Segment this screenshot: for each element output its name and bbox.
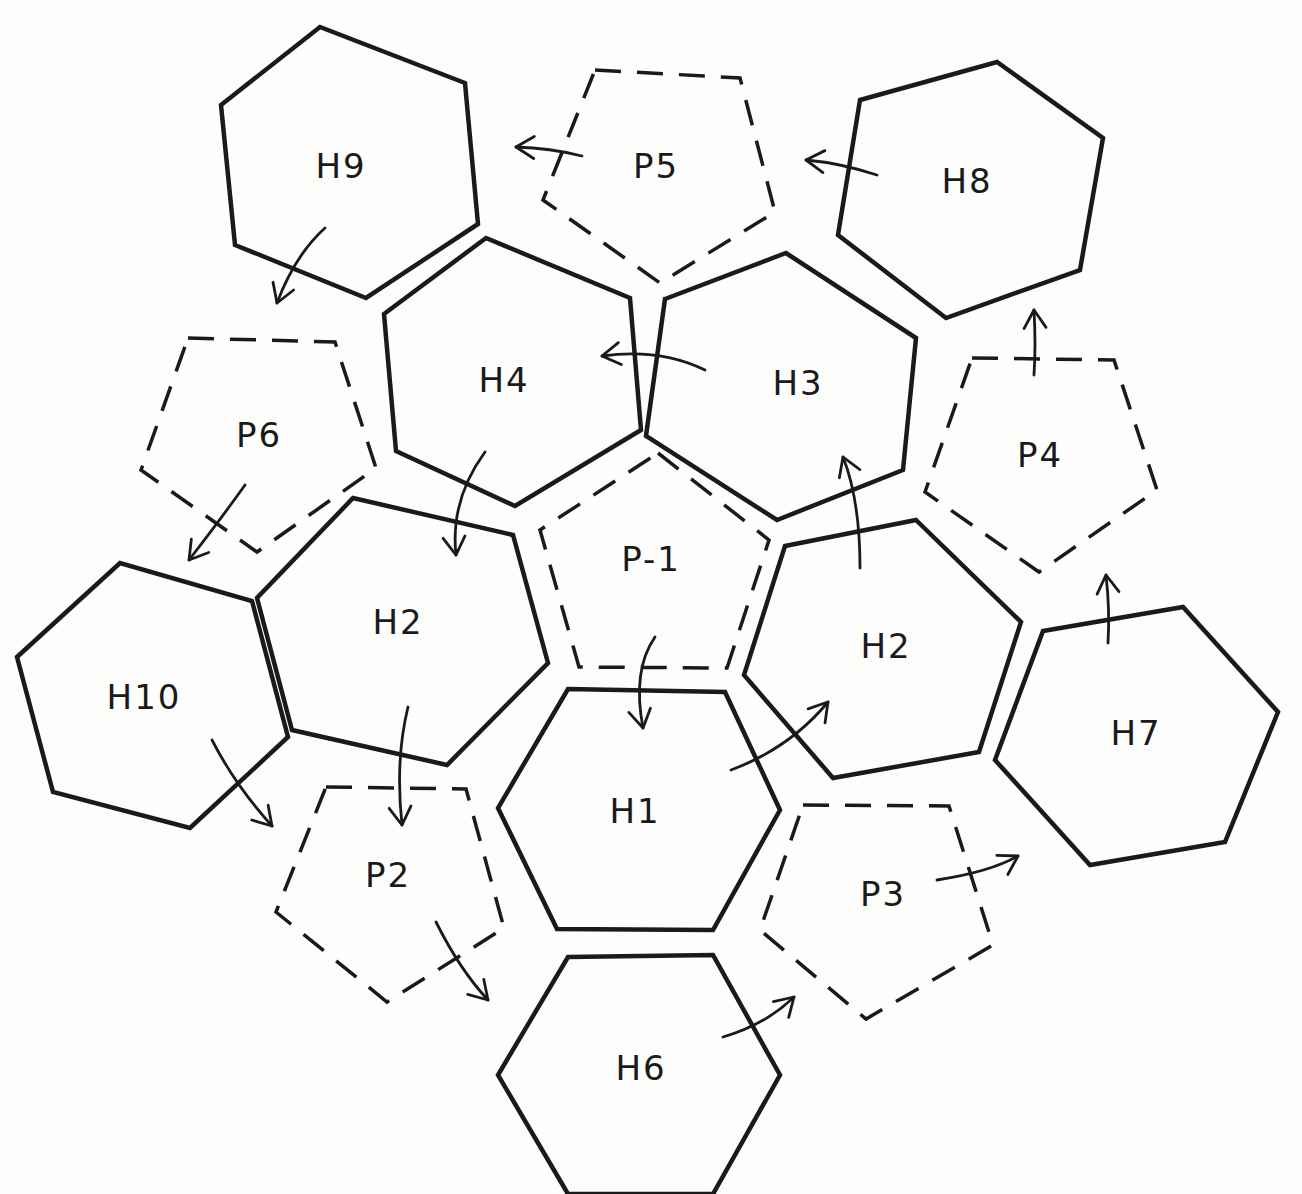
shape-label-h1: H1 bbox=[609, 791, 660, 831]
sequence-arrow-icon bbox=[516, 137, 582, 159]
sequence-arrow-icon bbox=[839, 457, 860, 568]
shape-label-p6: P6 bbox=[236, 415, 282, 455]
sequence-arrow-icon bbox=[723, 997, 794, 1037]
sequence-arrow-icon bbox=[436, 922, 488, 1000]
arrow-shaft bbox=[1106, 575, 1109, 643]
shape-label-h4: H4 bbox=[478, 360, 529, 400]
arrow-shaft bbox=[455, 452, 485, 555]
arrow-shaft bbox=[1034, 310, 1035, 375]
shape-label-p4: P4 bbox=[1017, 435, 1063, 475]
sequence-arrow-icon bbox=[629, 637, 655, 728]
labels-layer: H9P5H8H4H3P6P4P-1H2H2H10H7H1P2P3H6 bbox=[107, 146, 1162, 1088]
sequence-arrow-icon bbox=[389, 707, 411, 825]
diagram-canvas: H9P5H8H4H3P6P4P-1H2H2H10H7H1P2P3H6 bbox=[0, 0, 1302, 1194]
arrow-shaft bbox=[189, 485, 245, 560]
shape-label-h8: H8 bbox=[941, 161, 992, 201]
sequence-arrow-icon bbox=[189, 485, 245, 560]
arrow-shaft bbox=[436, 922, 488, 1000]
quilt-layout-diagram: H9P5H8H4H3P6P4P-1H2H2H10H7H1P2P3H6 bbox=[0, 0, 1302, 1194]
shape-label-h2a: H2 bbox=[372, 602, 423, 642]
shape-label-p2: P2 bbox=[365, 855, 411, 895]
arrow-shaft bbox=[400, 707, 408, 825]
pentagon-p2 bbox=[276, 787, 504, 1002]
shape-label-p5: P5 bbox=[633, 146, 679, 186]
shape-label-p3: P3 bbox=[860, 874, 906, 914]
sequence-arrow-icon bbox=[1097, 575, 1119, 643]
arrow-shaft bbox=[937, 856, 1018, 880]
arrow-shaft bbox=[212, 740, 272, 826]
shape-label-h7: H7 bbox=[1110, 713, 1161, 753]
sequence-arrow-icon bbox=[806, 151, 877, 175]
shape-label-h6: H6 bbox=[615, 1048, 666, 1088]
sequence-arrow-icon bbox=[212, 740, 272, 826]
shapes-layer bbox=[17, 27, 1278, 1194]
sequence-arrow-icon bbox=[443, 452, 485, 555]
shape-label-h9: H9 bbox=[315, 146, 366, 186]
arrows-layer bbox=[189, 137, 1119, 1037]
arrow-shaft bbox=[723, 997, 794, 1037]
sequence-arrow-icon bbox=[1024, 310, 1046, 375]
sequence-arrow-icon bbox=[937, 855, 1018, 880]
arrow-shaft bbox=[843, 457, 860, 568]
shape-label-h3: H3 bbox=[772, 363, 823, 403]
shape-label-h10: H10 bbox=[107, 677, 182, 717]
shape-label-p1: P-1 bbox=[621, 539, 681, 579]
shape-label-h2b: H2 bbox=[860, 626, 911, 666]
